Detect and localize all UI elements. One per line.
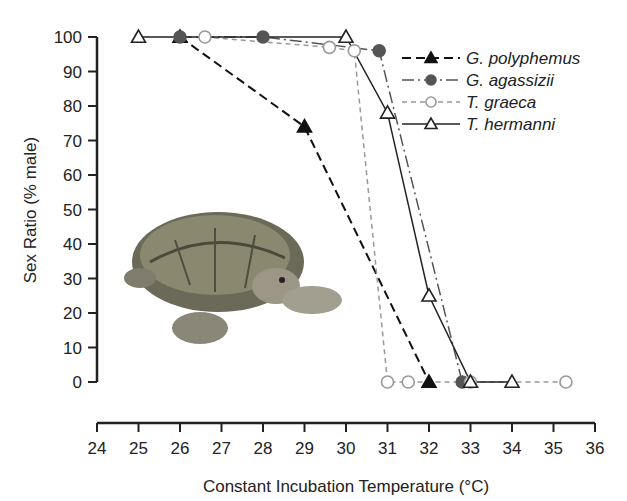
x-tick-label: 30 <box>337 439 356 458</box>
legend-entry: T. graeca <box>466 93 536 112</box>
x-tick-label: 35 <box>544 439 563 458</box>
x-tick-label: 27 <box>212 439 231 458</box>
y-tick-label: 100 <box>54 28 82 47</box>
y-tick-label: 90 <box>63 63 82 82</box>
x-tick-label: 25 <box>129 439 148 458</box>
y-tick-label: 60 <box>63 166 82 185</box>
x-axis-label: Constant Incubation Temperature (°C) <box>203 477 489 496</box>
y-tick-label: 80 <box>63 97 82 116</box>
legend: G. polyphemusG. agassiziiT. graecaT. her… <box>402 49 581 134</box>
x-tick-label: 28 <box>254 439 273 458</box>
x-tick-label: 24 <box>88 439 107 458</box>
x-tick-label: 29 <box>295 439 314 458</box>
x-tick-label: 26 <box>171 439 190 458</box>
x-tick-label: 34 <box>503 439 522 458</box>
chart: 0102030405060708090100242526272829303132… <box>0 0 627 501</box>
tortoise-image <box>124 212 342 344</box>
y-tick-label: 40 <box>63 235 82 254</box>
y-tick-label: 70 <box>63 132 82 151</box>
legend-entry: T. hermanni <box>466 115 556 134</box>
y-tick-label: 50 <box>63 201 82 220</box>
legend-entry: G. agassizii <box>466 71 555 90</box>
x-tick-label: 33 <box>461 439 480 458</box>
x-tick-label: 31 <box>378 439 397 458</box>
y-tick-label: 30 <box>63 270 82 289</box>
x-tick-label: 32 <box>420 439 439 458</box>
legend-entry: G. polyphemus <box>466 49 581 68</box>
y-axis-label: Sex Ratio (% male) <box>21 137 40 283</box>
x-tick-label: 36 <box>586 439 605 458</box>
y-tick-label: 10 <box>63 339 82 358</box>
y-tick-label: 0 <box>73 373 82 392</box>
y-tick-label: 20 <box>63 304 82 323</box>
